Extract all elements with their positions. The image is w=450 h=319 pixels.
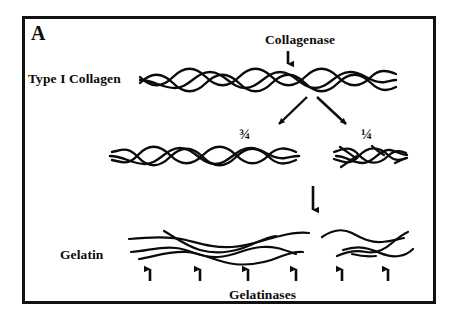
label-three-quarter-fragment: ¾: [239, 127, 250, 142]
one-quarter-fragment: [334, 146, 407, 167]
label-collagenase: Collagenase: [265, 33, 335, 47]
figure-panel-a: A Type I Collagen Collagenase ¾ ¼ Gelati…: [0, 0, 450, 319]
label-one-quarter-fragment: ¼: [361, 127, 372, 142]
three-quarter-fragment: [110, 147, 299, 166]
gelatin-random-coils-right: [322, 230, 413, 256]
label-gelatinases: Gelatinases: [229, 288, 296, 302]
label-type-i-collagen: Type I Collagen: [28, 72, 121, 86]
fragment-split-arrow-right: [317, 97, 346, 124]
fragment-split-arrow-left: [279, 97, 307, 124]
label-gelatin: Gelatin: [60, 248, 103, 262]
gelatin-random-coils-left: [129, 231, 309, 265]
panel-letter: A: [31, 23, 46, 43]
type-i-collagen-fibril: [140, 69, 396, 92]
diagram-canvas: [0, 0, 450, 319]
gelatinase-attack-arrows: [150, 269, 388, 281]
